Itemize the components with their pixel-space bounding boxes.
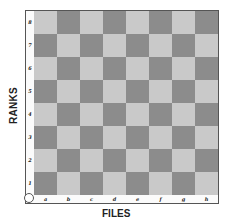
rank-label: 1: [26, 180, 34, 186]
chessboard-frame: 8 7 6 5 4 3 2 1 a b c d e f g h: [25, 10, 219, 204]
square-d4: [103, 103, 126, 126]
square-f5: [149, 80, 172, 103]
square-e6: [126, 57, 149, 80]
square-g6: [172, 57, 195, 80]
square-g8: [172, 11, 195, 34]
square-f3: [149, 126, 172, 149]
files-axis-title: FILES: [102, 208, 130, 219]
rank-label: 8: [26, 19, 34, 25]
file-label: e: [126, 195, 149, 203]
square-c5: [80, 80, 103, 103]
square-c2: [80, 149, 103, 172]
square-d3: [103, 126, 126, 149]
square-c1: [80, 172, 103, 195]
square-f7: [149, 34, 172, 57]
square-g5: [172, 80, 195, 103]
file-label: g: [172, 195, 195, 203]
file-label: f: [149, 195, 172, 203]
square-h4: [195, 103, 218, 126]
square-d5: [103, 80, 126, 103]
ranks-axis-title: RANKS: [8, 86, 19, 126]
square-b2: [57, 149, 80, 172]
square-a1: [34, 172, 57, 195]
square-h8: [195, 11, 218, 34]
square-a6: [34, 57, 57, 80]
square-e7: [126, 34, 149, 57]
square-g1: [172, 172, 195, 195]
chessboard-grid: [34, 11, 218, 195]
square-h1: [195, 172, 218, 195]
file-label: c: [80, 195, 103, 203]
square-e5: [126, 80, 149, 103]
square-b7: [57, 34, 80, 57]
square-b8: [57, 11, 80, 34]
square-b3: [57, 126, 80, 149]
square-g3: [172, 126, 195, 149]
file-label: d: [103, 195, 126, 203]
square-b1: [57, 172, 80, 195]
square-d1: [103, 172, 126, 195]
square-f4: [149, 103, 172, 126]
square-c4: [80, 103, 103, 126]
square-h2: [195, 149, 218, 172]
square-g4: [172, 103, 195, 126]
square-f1: [149, 172, 172, 195]
square-h3: [195, 126, 218, 149]
rank-label: 3: [26, 134, 34, 140]
square-e3: [126, 126, 149, 149]
square-e4: [126, 103, 149, 126]
square-a8: [34, 11, 57, 34]
square-f2: [149, 149, 172, 172]
square-e1: [126, 172, 149, 195]
file-label: a: [34, 195, 57, 203]
square-h5: [195, 80, 218, 103]
rank-label: 2: [26, 157, 34, 163]
square-c6: [80, 57, 103, 80]
square-d2: [103, 149, 126, 172]
square-c7: [80, 34, 103, 57]
rank-label: 6: [26, 65, 34, 71]
square-f8: [149, 11, 172, 34]
square-c3: [80, 126, 103, 149]
file-label: h: [195, 195, 218, 203]
square-h7: [195, 34, 218, 57]
square-d6: [103, 57, 126, 80]
square-b6: [57, 57, 80, 80]
square-a5: [34, 80, 57, 103]
rank-label: 4: [26, 111, 34, 117]
square-f6: [149, 57, 172, 80]
square-g2: [172, 149, 195, 172]
rank-label: 7: [26, 42, 34, 48]
square-e2: [126, 149, 149, 172]
square-a2: [34, 149, 57, 172]
square-h6: [195, 57, 218, 80]
corner-circle-icon: [24, 193, 34, 203]
square-a7: [34, 34, 57, 57]
file-label: b: [57, 195, 80, 203]
square-d8: [103, 11, 126, 34]
file-labels: a b c d e f g h: [34, 195, 218, 203]
rank-labels: 8 7 6 5 4 3 2 1: [26, 11, 34, 195]
square-a3: [34, 126, 57, 149]
square-a4: [34, 103, 57, 126]
square-c8: [80, 11, 103, 34]
square-b5: [57, 80, 80, 103]
rank-label: 5: [26, 88, 34, 94]
square-e8: [126, 11, 149, 34]
square-b4: [57, 103, 80, 126]
square-g7: [172, 34, 195, 57]
square-d7: [103, 34, 126, 57]
